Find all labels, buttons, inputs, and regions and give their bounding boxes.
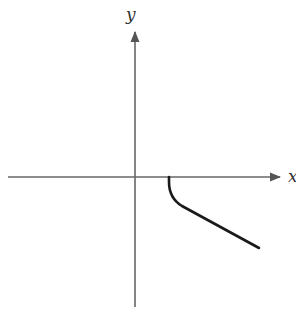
- y-axis-label: y: [125, 4, 136, 24]
- x-axis-label: x: [288, 166, 296, 186]
- function-graph: y x: [0, 0, 296, 324]
- function-curve: [169, 177, 259, 248]
